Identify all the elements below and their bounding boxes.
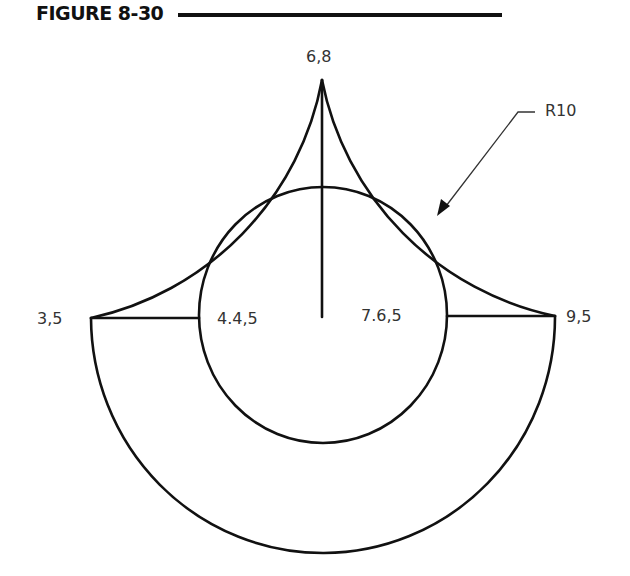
radius-leader bbox=[443, 112, 535, 210]
label-left-point: 3,5 bbox=[37, 309, 62, 328]
label-top-point: 6,8 bbox=[306, 47, 331, 66]
label-inner-right: 7.6,5 bbox=[361, 306, 402, 325]
right-r10-arc bbox=[322, 80, 555, 316]
drawing bbox=[0, 0, 630, 576]
label-inner-left: 4.4,5 bbox=[217, 309, 258, 328]
label-radius: R10 bbox=[545, 101, 576, 120]
leader-arrowhead-icon bbox=[437, 199, 450, 216]
label-right-point: 9,5 bbox=[566, 307, 591, 326]
left-r10-arc bbox=[91, 80, 322, 318]
outer-arc bbox=[91, 316, 555, 553]
